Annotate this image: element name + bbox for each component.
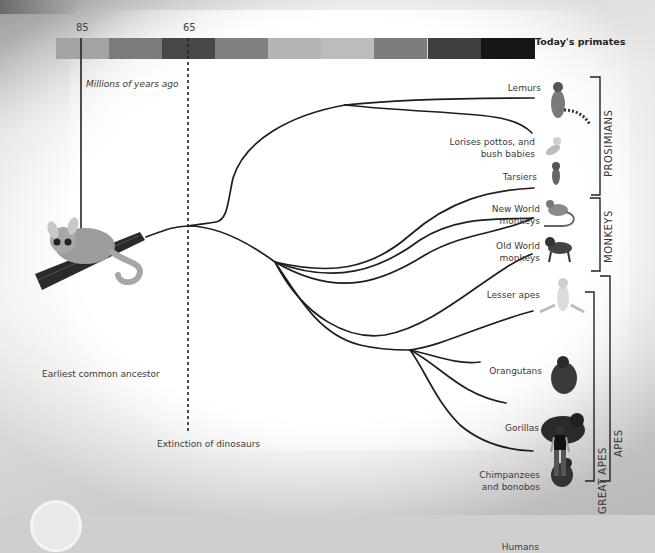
species-label-tarsiers: Tarsiers bbox=[503, 171, 537, 183]
new-world-line2: monkeys bbox=[492, 215, 540, 227]
tarsier-icon bbox=[552, 162, 560, 185]
group-label-apes: APES bbox=[613, 429, 624, 457]
baboon-icon bbox=[545, 237, 572, 262]
species-label-lorises: Lorises pottos, and bush babies bbox=[450, 136, 535, 160]
gibbon-icon bbox=[540, 278, 584, 312]
bushbaby-on-branch-icon bbox=[35, 216, 145, 290]
species-label-lemurs: Lemurs bbox=[508, 82, 541, 94]
lorises-line1: Lorises pottos, and bbox=[450, 136, 535, 148]
species-label-gorillas: Gorillas bbox=[505, 422, 539, 434]
chimps-line1: Chimpanzees bbox=[479, 469, 540, 481]
orangutan-icon bbox=[551, 356, 577, 394]
chimps-line2: and bonobos bbox=[479, 481, 540, 493]
species-label-old-world: Old World monkeys bbox=[496, 240, 540, 264]
group-label-monkeys: MONKEYS bbox=[603, 210, 614, 263]
species-label-lesser-apes: Lesser apes bbox=[487, 289, 540, 301]
axis-label-millions-of-years: Millions of years ago bbox=[86, 78, 178, 90]
species-label-new-world: New World monkeys bbox=[492, 203, 540, 227]
new-world-line1: New World bbox=[492, 203, 540, 215]
lorises-line2: bush babies bbox=[450, 148, 535, 160]
ancestor-label: Earliest common ancestor bbox=[42, 368, 160, 380]
lemur-icon bbox=[551, 82, 590, 125]
old-world-line1: Old World bbox=[496, 240, 540, 252]
bracket-prosimians bbox=[590, 77, 600, 195]
bracket-great-apes bbox=[585, 292, 594, 481]
group-label-prosimians: PROSIMIANS bbox=[603, 110, 614, 177]
species-label-chimps: Chimpanzees and bonobos bbox=[479, 469, 540, 493]
bracket-monkeys bbox=[590, 198, 600, 271]
extinction-label: Extinction of dinosaurs bbox=[157, 438, 260, 450]
species-label-humans: Humans bbox=[502, 541, 539, 553]
old-world-line2: monkeys bbox=[496, 252, 540, 264]
timeline-bar bbox=[56, 38, 535, 59]
tick-label-65: 65 bbox=[183, 22, 196, 33]
loris-icon bbox=[544, 137, 562, 157]
human-figure-icon bbox=[545, 425, 575, 485]
group-label-great-apes: GREAT APES bbox=[597, 447, 608, 514]
species-label-orangutans: Orangutans bbox=[489, 365, 542, 377]
tick-label-85: 85 bbox=[76, 22, 89, 33]
todays-primates-label: Today's primates bbox=[535, 36, 625, 48]
new-world-monkey-icon bbox=[544, 200, 574, 226]
